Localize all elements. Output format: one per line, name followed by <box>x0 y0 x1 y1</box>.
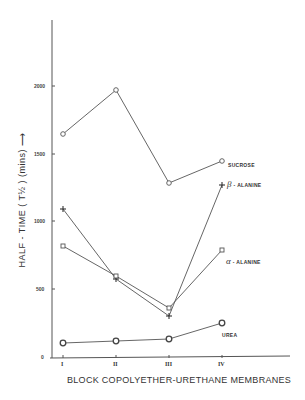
y-tick-0: 0 <box>41 354 44 360</box>
x-cat-III: III <box>165 361 172 367</box>
series-urea <box>60 320 225 346</box>
x-cat-II: II <box>113 361 118 367</box>
series-alpha-alanine <box>61 244 224 310</box>
x-cat-IV: IV <box>218 361 225 367</box>
y-tick-1000: 1000 <box>34 218 45 224</box>
label-beta-alanine: β - ALANINE <box>227 179 261 189</box>
alpha-alanine-text: - ALANINE <box>231 259 261 265</box>
y-tick-1500: 1500 <box>34 151 45 157</box>
label-sucrose: SUCROSE <box>228 162 255 168</box>
line-chart <box>0 0 305 400</box>
x-axis-label: BLOCK COPOLYETHER-URETHANE MEMBRANES <box>67 375 291 385</box>
label-urea: UREA <box>222 332 237 338</box>
series-sucrose <box>61 88 225 186</box>
label-alpha-alanine: α - ALANINE <box>226 256 261 266</box>
x-axis <box>50 356 290 358</box>
beta-alanine-text: - ALANINE <box>232 182 262 188</box>
series-beta-alanine <box>60 182 225 319</box>
y-axis-label: HALF - TIME ( T½ ) (mins) ⟶ <box>17 132 27 267</box>
x-cat-I: I <box>61 361 63 367</box>
y-tick-2000: 2000 <box>34 83 45 89</box>
y-tick-500: 500 <box>36 286 44 292</box>
